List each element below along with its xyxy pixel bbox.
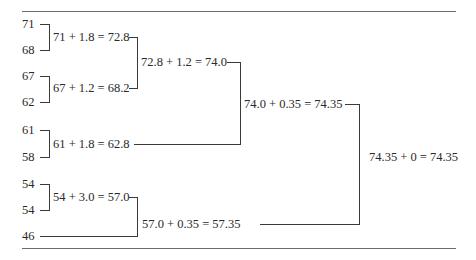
node-equation: 74.0 + 0.35 = 74.35 [244,97,342,111]
root-equation: 74.35 + 0 = 74.35 [369,150,458,164]
node-equation: 67 + 1.2 = 68.2 [53,81,130,95]
leaf-value: 54 [22,203,35,217]
node-equation: 61 + 1.8 = 62.8 [53,137,130,151]
leaf-value: 54 [22,177,35,191]
leaf-value: 46 [22,229,35,243]
leaf-value: 62 [22,95,35,109]
leaf-value: 71 [22,17,35,31]
node-equation: 71 + 1.8 = 72.8 [53,30,130,44]
node-equation: 72.8 + 1.2 = 74.0 [141,55,227,69]
leaf-value: 68 [22,43,35,57]
leaf-value: 58 [22,150,35,164]
node-equation: 57.0 + 0.35 = 57.35 [142,217,240,231]
node-equation: 54 + 3.0 = 57.0 [53,190,130,204]
leaf-value: 61 [22,123,35,137]
leaf-value: 67 [22,69,35,83]
